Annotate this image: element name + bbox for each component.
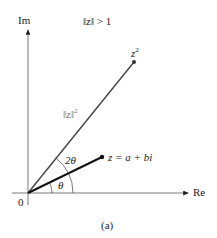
two-theta-label: 2θ (65, 155, 76, 166)
real-axis-label: Re (193, 187, 205, 198)
complex-plane-diagram (0, 0, 217, 238)
origin-label: 0 (18, 197, 24, 208)
theta-arc (50, 183, 52, 194)
condition-label: ‖z‖ > 1 (83, 16, 111, 27)
caption: (a) (101, 220, 113, 231)
imag-axis-label: Im (18, 15, 30, 26)
theta-label: θ (58, 180, 63, 191)
z-point (100, 155, 104, 159)
z-label: z = a + bi (108, 152, 152, 163)
z-squared-point (132, 60, 136, 64)
modulus-squared-label: ‖z‖2 (63, 108, 78, 120)
z-squared-vector (28, 62, 134, 193)
z-squared-label: z2 (131, 47, 139, 59)
